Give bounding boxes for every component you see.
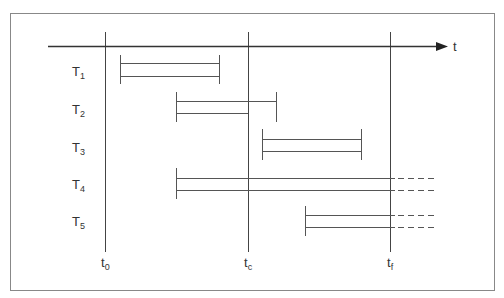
task-label-t3: T3	[72, 140, 85, 157]
time-axis-label: t	[453, 39, 457, 54]
task-bar-t1	[120, 55, 220, 84]
time-marker-lines	[106, 32, 391, 252]
task-label-t5: T5	[72, 214, 85, 231]
time-label-t0: t0	[101, 255, 110, 272]
task-label-t1: T1	[72, 64, 85, 81]
task-label-t2: T2	[72, 102, 85, 119]
time-marker-labels: t0 tc tf	[101, 255, 394, 272]
task-bar-t2	[176, 92, 277, 122]
task-bars	[120, 55, 434, 236]
time-label-tc: tc	[244, 255, 253, 272]
task-label-t4: T4	[72, 177, 85, 194]
task-bar-t3	[262, 129, 362, 160]
task-bar-t5	[305, 206, 434, 236]
task-timeline-diagram: t	[0, 0, 504, 298]
task-labels: T1 T2 T3 T4 T5	[72, 64, 85, 231]
arrowhead-icon	[436, 42, 448, 51]
time-label-tf: tf	[387, 255, 394, 272]
time-axis: t	[48, 39, 457, 54]
task-bar-t4	[176, 168, 434, 199]
